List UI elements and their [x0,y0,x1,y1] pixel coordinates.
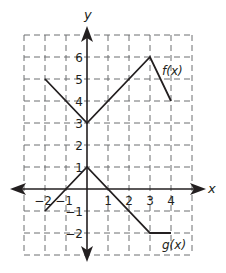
f-of-x-label: f(x) [162,64,183,78]
svg-text:3: 3 [75,117,83,131]
svg-text:1: 1 [104,194,112,208]
svg-text:3: 3 [146,194,154,208]
x-axis-label: x [207,181,216,196]
coordinate-plane: y x −2 −1 1 2 3 4 6 5 4 3 2 1 −1 −2 f(x)… [0,0,226,273]
svg-text:4: 4 [75,95,83,109]
svg-text:−2: −2 [65,227,83,241]
y-axis-label: y [83,7,92,22]
svg-text:2: 2 [125,194,133,208]
g-of-x-label: g(x) [162,238,186,252]
svg-text:2: 2 [75,139,83,153]
svg-text:5: 5 [75,73,83,87]
svg-text:4: 4 [167,194,175,208]
svg-text:6: 6 [75,51,83,65]
svg-text:−1: −1 [65,205,83,219]
